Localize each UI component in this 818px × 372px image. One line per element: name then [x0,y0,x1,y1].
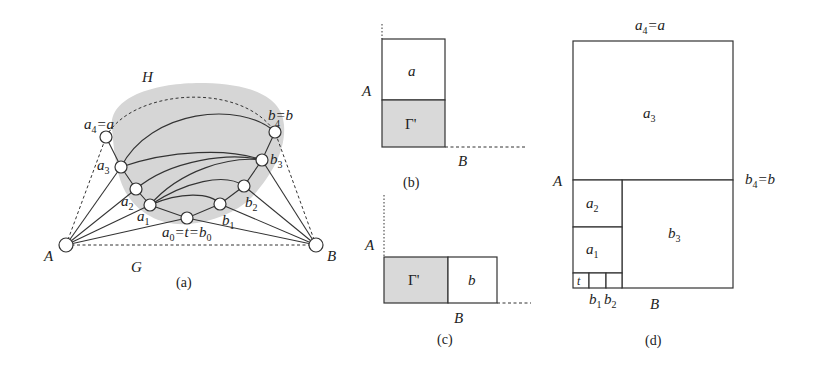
caption-b: (b) [403,175,420,191]
cell-b1 [589,273,606,288]
cell-b2 [606,273,622,288]
node-b3 [256,154,268,166]
bottom-label-b2: b2 [604,291,617,310]
cell-gamma-label: Γ' [408,272,420,288]
node-a3 [115,161,127,173]
node-a4 [100,131,112,143]
label-A: A [43,248,54,264]
right-label: b4=b [745,171,776,190]
label-H: H [141,69,154,85]
node-a2 [130,183,142,195]
panel-a: H G A B a4=a a3 a2 a1 a0=t=b0 b1 b2 b3 b… [43,69,336,291]
region-h-blob [112,83,284,224]
caption-d: (d) [645,333,662,349]
node-B [309,238,323,252]
bottom-label-b1: b1 [589,291,602,310]
panel-b: a Γ' A B (b) [361,24,527,191]
cell-t [573,273,589,288]
label-b1: b1 [222,212,235,231]
panel-c: Γ' b A B (c) [364,195,531,348]
cell-gamma-label: Γ' [405,116,417,132]
label-B: B [327,248,336,264]
top-label: a4=a [635,17,665,36]
cell-a-label: a [408,63,416,79]
label-B: B [458,153,467,169]
node-A [59,238,73,252]
cell-a3 [573,41,733,180]
label-A: A [361,83,372,99]
label-B: B [454,310,463,326]
panel-d: a4=a b4=b A B a3 a2 a1 b3 t b1 b2 (d) [552,17,776,349]
label-b2: b2 [245,194,258,213]
label-G: G [131,259,142,275]
label-a3: a3 [97,157,110,176]
node-t [181,212,193,224]
caption-a: (a) [176,275,192,291]
label-b4: b=b [268,107,294,123]
label-t: a0=t=b0 [162,224,211,243]
label-A: A [552,173,563,189]
node-a1 [144,199,156,211]
label-b4-sub: 4 [275,118,280,129]
label-A: A [364,237,375,253]
node-b1 [214,198,226,210]
caption-c: (c) [437,332,453,348]
cell-b-label: b [468,272,476,288]
node-b2 [238,180,250,192]
label-B: B [650,296,659,312]
figure: H G A B a4=a a3 a2 a1 a0=t=b0 b1 b2 b3 b… [0,0,818,372]
